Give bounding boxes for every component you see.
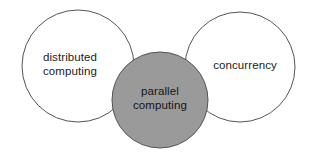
venn-diagram: distributed computing parallel computing… [0, 0, 312, 159]
label-distributed-computing-line1: distributed [43, 51, 97, 63]
venn-diagram-canvas: distributed computing parallel computing… [0, 0, 312, 159]
label-distributed-computing-line2: computing [43, 65, 97, 77]
label-parallel-computing-line2: computing [133, 99, 187, 111]
label-parallel-computing-line1: parallel [141, 85, 179, 97]
label-concurrency: concurrency [213, 59, 277, 71]
